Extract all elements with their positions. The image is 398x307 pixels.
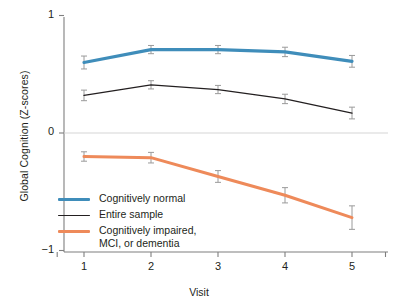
y-tick-label: −1: [28, 243, 54, 255]
plot-area: [0, 0, 398, 307]
y-tick-label: 0: [28, 125, 54, 137]
legend-swatch-icon: [58, 198, 90, 201]
legend-label: Entire sample: [99, 208, 163, 221]
legend-label: Cognitively normal: [99, 192, 185, 205]
x-tick-label: 1: [72, 260, 96, 272]
legend-item: Cognitively impaired, MCI, or dementia: [58, 224, 196, 249]
series-0: [81, 45, 355, 69]
y-tick-label: 1: [28, 8, 54, 20]
line-chart: Global Cognition (Z-scores) Visit 10−1 1…: [0, 0, 398, 307]
legend-item: Entire sample: [58, 208, 196, 223]
legend-swatch-icon: [58, 230, 90, 233]
legend-label: Cognitively impaired, MCI, or dementia: [99, 224, 196, 249]
x-tick-label: 3: [206, 260, 230, 272]
x-tick-label: 5: [340, 260, 364, 272]
x-axis-label: Visit: [0, 286, 398, 298]
legend-swatch-icon: [58, 215, 90, 216]
legend: Cognitively normalEntire sampleCognitive…: [58, 192, 196, 250]
x-tick-label: 2: [139, 260, 163, 272]
x-tick-label: 4: [273, 260, 297, 272]
series-1: [81, 81, 355, 119]
legend-item: Cognitively normal: [58, 192, 196, 207]
